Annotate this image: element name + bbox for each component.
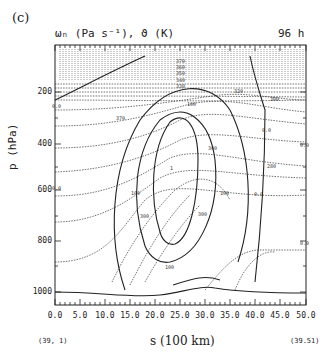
corner-annotation-right: (39.51) [290, 337, 320, 345]
theta-contours [55, 84, 306, 290]
svg-text:0.0: 0.0 [254, 191, 263, 197]
svg-text:0.0: 0.0 [52, 103, 61, 109]
svg-text:300: 300 [270, 96, 279, 102]
svg-text:0.0: 0.0 [300, 142, 309, 148]
right-ticks [300, 92, 306, 292]
svg-text:300: 300 [198, 211, 207, 217]
svg-text:100: 100 [165, 264, 174, 270]
svg-text:280: 280 [267, 163, 276, 169]
y-tick-200: 200 [22, 87, 52, 96]
x-tick-50: 50.0 [291, 311, 321, 320]
y-tick-800: 800 [22, 236, 52, 245]
contour-plot: 370 360 350 340 330 320 300 370 280 100 … [0, 0, 327, 353]
svg-text:100: 100 [131, 190, 140, 196]
svg-text:350: 350 [176, 70, 185, 76]
svg-text:330: 330 [176, 83, 185, 89]
y-tick-400: 400 [22, 139, 52, 148]
svg-text:320: 320 [234, 88, 243, 94]
y-tick-600: 600 [22, 185, 52, 194]
svg-text:100: 100 [187, 101, 196, 107]
svg-text:370: 370 [116, 115, 125, 121]
corner-annotation-left: (39, 1) [38, 337, 68, 345]
svg-text:0.0: 0.0 [262, 127, 271, 133]
bottom-ticks [55, 299, 306, 305]
svg-text:100: 100 [220, 190, 229, 196]
y-axis-label: p (hPa) [6, 124, 19, 170]
y-tick-1000: 1000 [22, 287, 52, 296]
svg-text:300: 300 [140, 213, 149, 219]
svg-text:1: 1 [170, 165, 173, 171]
svg-text:300: 300 [208, 145, 217, 151]
top-ticks [55, 45, 306, 51]
x-axis-label: s (100 km) [150, 334, 215, 348]
